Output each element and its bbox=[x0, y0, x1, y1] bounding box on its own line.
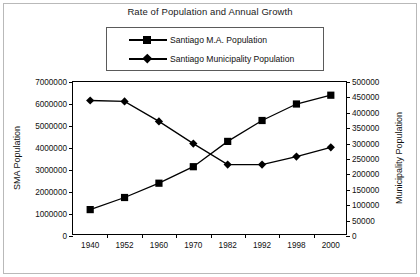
y-tick-label-right: 450000 bbox=[352, 93, 379, 102]
y-tick-label-left: 7000000 bbox=[35, 78, 67, 87]
x-tick-label: 1970 bbox=[184, 241, 202, 250]
y-tick-label-right: 150000 bbox=[352, 185, 379, 194]
x-tick-label: 1982 bbox=[219, 241, 237, 250]
y-tick-label-left: 6000000 bbox=[35, 100, 67, 109]
legend-marker-square bbox=[129, 34, 167, 46]
y-tick-label-right: 250000 bbox=[352, 155, 379, 164]
data-point-diamond bbox=[86, 96, 94, 104]
chart-figure: Rate of Population and Annual Growth San… bbox=[0, 0, 420, 277]
legend-marker-diamond bbox=[129, 53, 167, 65]
y-tick-label-left: 2000000 bbox=[35, 188, 67, 197]
data-point-diamond bbox=[292, 152, 300, 160]
data-point-square bbox=[190, 163, 197, 170]
y-tick-label-right: 300000 bbox=[352, 139, 379, 148]
data-point-square bbox=[258, 117, 265, 124]
y-tick-label-right: 400000 bbox=[352, 108, 379, 117]
series-layer bbox=[73, 82, 348, 236]
y-tick-label-left: 0 bbox=[62, 232, 67, 241]
y-tick-label-right: 50000 bbox=[352, 216, 375, 225]
data-point-square bbox=[87, 206, 94, 213]
data-point-diamond bbox=[327, 143, 335, 151]
legend-item-municipality: Santiago Municipality Population bbox=[107, 51, 325, 67]
y-tick-label-left: 1000000 bbox=[35, 210, 67, 219]
data-point-square bbox=[121, 194, 128, 201]
y-tick-label-right: 500000 bbox=[352, 78, 379, 87]
x-tick-label: 2000 bbox=[322, 241, 340, 250]
chart-legend: Santiago M.A. Population Santiago Munici… bbox=[106, 27, 324, 71]
data-point-square bbox=[155, 180, 162, 187]
x-tick-label: 1998 bbox=[287, 241, 305, 250]
x-tick-label: 1960 bbox=[150, 241, 168, 250]
data-point-diamond bbox=[155, 117, 163, 125]
x-tick-label: 1952 bbox=[115, 241, 133, 250]
data-point-diamond bbox=[258, 160, 266, 168]
data-point-square bbox=[327, 92, 334, 99]
y-tick-label-left: 3000000 bbox=[35, 166, 67, 175]
data-point-diamond bbox=[189, 140, 197, 148]
data-point-diamond bbox=[120, 97, 128, 105]
y-tick-label-right: 350000 bbox=[352, 124, 379, 133]
y-tick-right bbox=[346, 236, 350, 237]
y-tick-label-right: 200000 bbox=[352, 170, 379, 179]
chart-title: Rate of Population and Annual Growth bbox=[0, 6, 420, 17]
legend-item-sma: Santiago M.A. Population bbox=[107, 32, 325, 48]
series-sma bbox=[87, 92, 335, 214]
y-tick-label-left: 4000000 bbox=[35, 144, 67, 153]
y-tick-label-right: 100000 bbox=[352, 201, 379, 210]
legend-label-municipality: Santiago Municipality Population bbox=[170, 54, 294, 64]
y-axis-right-title: Municipality Population bbox=[392, 81, 406, 235]
data-point-diamond bbox=[224, 160, 232, 168]
y-axis-left-title: SMA Population bbox=[10, 81, 24, 235]
y-tick-label-right: 0 bbox=[352, 232, 357, 241]
y-tick-label-left: 5000000 bbox=[35, 122, 67, 131]
legend-label-sma: Santiago M.A. Population bbox=[170, 35, 267, 45]
series-line bbox=[90, 95, 331, 209]
plot-area: 0100000020000003000000400000050000006000… bbox=[72, 81, 347, 235]
data-point-square bbox=[293, 100, 300, 107]
data-point-square bbox=[224, 138, 231, 145]
x-tick-label: 1940 bbox=[81, 241, 99, 250]
y-tick-left bbox=[69, 236, 73, 237]
x-tick-label: 1992 bbox=[253, 241, 271, 250]
